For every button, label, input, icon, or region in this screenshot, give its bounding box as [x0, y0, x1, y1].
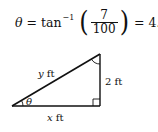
right-angle-marker	[93, 99, 100, 106]
base-label: x ft	[47, 112, 64, 123]
hypotenuse-label: y ft	[37, 68, 55, 79]
theta-label: θ	[26, 96, 32, 107]
right-triangle-diagram: y ft 2 ft x ft θ	[0, 0, 158, 132]
theta-arc	[22, 100, 24, 106]
top-angle-arc	[91, 59, 100, 64]
vertical-label: 2 ft	[105, 76, 122, 87]
